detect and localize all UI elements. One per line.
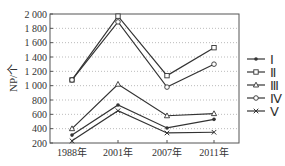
y-tick-label: 600 bbox=[32, 109, 47, 120]
legend: ⅠⅡⅢⅣⅤ bbox=[247, 52, 282, 119]
x-tick-label: 1988年 bbox=[57, 146, 87, 158]
series-line bbox=[70, 20, 217, 90]
y-tick-label: 800 bbox=[32, 95, 47, 106]
line-chart: 2004006008001 0001 2001 4001 6001 8002 0… bbox=[0, 0, 285, 166]
series-line bbox=[70, 108, 217, 143]
y-tick-label: 200 bbox=[32, 138, 47, 149]
legend-label: Ⅴ bbox=[270, 104, 279, 119]
y-tick-label: 1 800 bbox=[25, 23, 48, 34]
series-line bbox=[70, 14, 216, 82]
y-axis-label: NP/个 bbox=[7, 64, 19, 92]
x-tick-label: 2007年 bbox=[152, 146, 182, 158]
y-tick-label: 2 000 bbox=[25, 9, 48, 20]
y-axis-ticks: 2004006008001 0001 2001 4001 6001 8002 0… bbox=[25, 9, 54, 149]
y-tick-label: 400 bbox=[32, 123, 47, 134]
plot-frame bbox=[50, 14, 239, 143]
series-lines bbox=[69, 14, 216, 143]
y-tick-label: 1 600 bbox=[25, 37, 48, 48]
y-tick-label: 1 400 bbox=[25, 52, 48, 63]
x-tick-label: 2001年 bbox=[103, 146, 133, 158]
y-tick-label: 1 200 bbox=[25, 66, 48, 77]
y-tick-label: 1 000 bbox=[25, 80, 48, 91]
series-line bbox=[70, 103, 216, 137]
x-tick-label: 2011年 bbox=[199, 146, 229, 158]
legend-item: Ⅴ bbox=[247, 104, 279, 119]
